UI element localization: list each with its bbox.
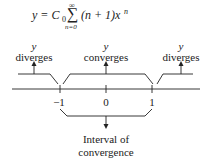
arrowhead-icon (32, 61, 37, 66)
interval-label-line1: Interval of (83, 133, 129, 145)
left-diverge-bracket (18, 74, 58, 84)
interval-bracket (60, 109, 152, 116)
arrowhead-icon (179, 61, 184, 66)
arrowhead-icon (104, 61, 109, 66)
converge-bracket (63, 74, 153, 84)
tick-label-one: 1 (149, 96, 155, 108)
right-diverge-bracket (157, 74, 193, 84)
arrowhead-icon (104, 124, 109, 129)
interval-label-line2: convergence (78, 146, 133, 158)
tick-label-minus-one: −1 (53, 96, 65, 108)
tick-label-zero: 0 (103, 96, 109, 108)
